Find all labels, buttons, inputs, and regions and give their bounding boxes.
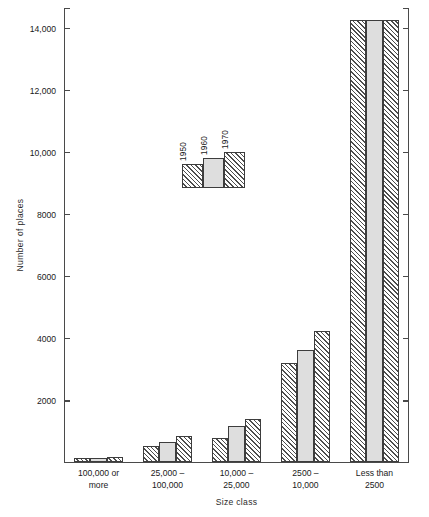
legend-label-1960: 1960 [200,136,209,155]
x-tick-label-group-2: 25,000 –100,000 [133,468,202,491]
x-tick-label-group-1: 100,000 ormore [64,468,133,491]
y-tick-label-14000: 14,000 [10,24,56,34]
bar-1950-group-5 [350,20,367,462]
x-tick-label-line2: 100,000 [133,480,202,492]
bar-1950-group-1 [74,458,91,461]
x-tick-label-line2: 2500 [340,480,409,492]
x-tick-label-line2: 10,000 [271,480,340,492]
x-axis-label: Size class [64,497,409,507]
x-tick-label-line1: 2500 – [271,468,340,480]
bar-1970-group-4 [314,331,331,462]
x-tick-label-group-3: 10,000 –25,000 [202,468,271,491]
y-tick-label-12000: 12,000 [10,86,56,96]
y-axis-tick-labels: 200040006000800010,00012,00014,000 [0,0,56,517]
x-tick-label-line1: 25,000 – [133,468,202,480]
x-tick-label-line1: Less than [340,468,409,480]
bar-1960-group-2 [159,442,176,461]
bar-1960-group-3 [228,426,245,462]
bar-1960-group-1 [90,458,107,462]
x-tick-label-line2: more [64,480,133,492]
x-tick-label-group-4: 2500 –10,000 [271,468,340,491]
x-axis-line [64,462,409,463]
bar-1960-group-5 [366,20,383,462]
legend-label-1950: 1950 [179,142,188,161]
legend-swatch-1960 [203,158,224,188]
x-tick-label-line2: 25,000 [202,480,271,492]
y-tick-label-2000: 2000 [10,396,56,406]
x-tick-label-line1: 10,000 – [202,468,271,480]
plot-area: 195019601970 [64,8,409,463]
y-tick-label-6000: 6000 [10,272,56,282]
y-tick-label-4000: 4000 [10,334,56,344]
x-tick-label-line1: 100,000 or [64,468,133,480]
legend-label-1970: 1970 [221,130,230,149]
legend-swatch-1970 [224,152,245,188]
bar-1970-group-1 [107,457,124,462]
bar-1970-group-2 [176,436,193,462]
y-tick-label-10000: 10,000 [10,148,56,158]
bar-1950-group-3 [212,438,229,462]
chart-legend: 195019601970 [182,136,260,188]
bar-series-container [64,9,409,462]
bar-1970-group-3 [245,419,262,462]
bar-1960-group-4 [297,350,314,462]
y-tick-label-8000: 8000 [10,210,56,220]
bar-1950-group-4 [281,363,298,462]
legend-swatch-1950 [182,164,203,188]
bar-1970-group-5 [383,20,400,462]
bar-1950-group-2 [143,446,160,462]
x-tick-label-group-5: Less than2500 [340,468,409,491]
bar-chart: Number of places 200040006000800010,0001… [0,0,429,517]
